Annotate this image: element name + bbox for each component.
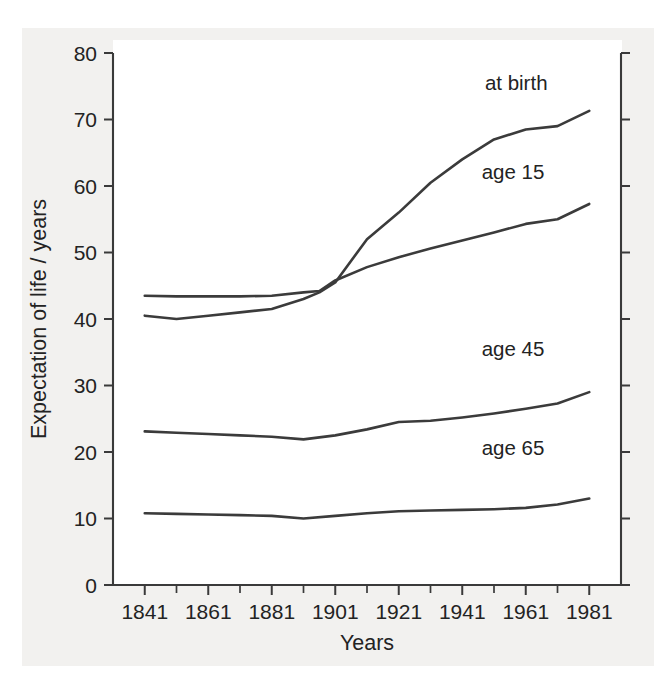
y-tick-label-10: 10 (74, 507, 97, 530)
x-tick-label-1921: 1921 (375, 600, 422, 623)
x-axis-ticks (145, 585, 590, 595)
series-line-age-45 (145, 392, 590, 439)
x-tick-label-1961: 1961 (502, 600, 549, 623)
x-axis-title: Years (340, 631, 394, 655)
line-chart: 01020304050607080 1841186118811901192119… (0, 0, 670, 689)
series-label-age-45: age 45 (482, 337, 545, 360)
y-tick-label-70: 70 (74, 108, 97, 131)
x-tick-label-1901: 1901 (312, 600, 359, 623)
series-line-age-15 (145, 204, 590, 296)
series-line-age-65 (145, 499, 590, 519)
figure-root: 01020304050607080 1841186118811901192119… (0, 0, 670, 689)
y-tick-label-20: 20 (74, 441, 97, 464)
y-tick-label-0: 0 (85, 574, 97, 597)
y-axis-title: Expectation of life / years (27, 199, 51, 439)
x-tick-label-1881: 1881 (248, 600, 295, 623)
y-axis-ticks-left (104, 53, 113, 585)
y-axis-tick-labels: 01020304050607080 (74, 42, 97, 597)
y-tick-label-40: 40 (74, 308, 97, 331)
y-tick-label-60: 60 (74, 175, 97, 198)
series-line-at-birth (145, 111, 590, 319)
x-axis-tick-labels: 18411861188119011921194119611981 (121, 600, 612, 623)
x-tick-label-1861: 1861 (185, 600, 232, 623)
y-tick-label-30: 30 (74, 374, 97, 397)
series-label-age-65: age 65 (482, 436, 545, 459)
x-tick-label-1841: 1841 (121, 600, 168, 623)
y-axis-ticks-right (621, 53, 630, 585)
x-tick-label-1981: 1981 (566, 600, 613, 623)
x-tick-label-1941: 1941 (439, 600, 486, 623)
y-tick-label-50: 50 (74, 241, 97, 264)
series-label-age-15: age 15 (482, 160, 545, 183)
series-label-at-birth: at birth (485, 71, 548, 94)
y-tick-label-80: 80 (74, 42, 97, 65)
